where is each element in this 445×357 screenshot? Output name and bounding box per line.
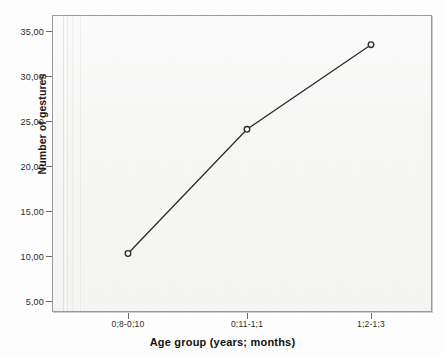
y-axis-title: Number of gestures xyxy=(36,44,48,204)
series-markers xyxy=(125,42,374,256)
data-series-layer xyxy=(52,15,432,312)
y-tick-mark xyxy=(46,211,52,212)
line-chart-figure: 35,00 30,00 25,00 20,00 15,00 10,00 5,00… xyxy=(0,0,445,357)
x-axis-title: Age group (years; months) xyxy=(0,336,445,348)
series-line xyxy=(128,45,371,254)
data-point-marker xyxy=(244,127,250,133)
y-tick-label: 10,00 xyxy=(20,253,44,262)
x-tick-label: 1;2-1;3 xyxy=(357,320,385,329)
y-tick-label: 35,00 xyxy=(20,28,44,37)
x-tick-label: 0;11-1;1 xyxy=(231,320,263,329)
data-point-marker xyxy=(368,42,374,48)
y-tick-mark xyxy=(46,31,52,32)
y-tick-mark xyxy=(46,301,52,302)
y-tick-label: 15,00 xyxy=(20,208,44,217)
y-tick-mark xyxy=(46,256,52,257)
data-point-marker xyxy=(125,251,131,257)
x-tick-label: 0;8-0;10 xyxy=(112,320,145,329)
y-tick-label: 5,00 xyxy=(26,298,44,307)
